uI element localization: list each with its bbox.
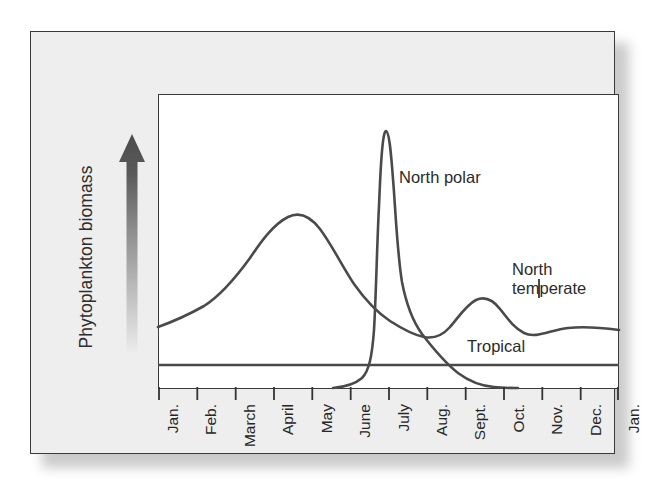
- annotation-north-temperate: North temperate: [512, 260, 586, 299]
- x-axis-tick-label: Sept.: [471, 404, 489, 440]
- y-axis-label-group: Phytoplankton biomass: [65, 92, 107, 422]
- annotation-north-temperate-line2: temperate: [512, 279, 586, 298]
- annotation-north-polar-text: North polar: [399, 168, 481, 186]
- annotation-north-temperate-line1: North: [512, 260, 586, 279]
- annotation-north-polar: North polar: [399, 168, 481, 187]
- x-axis-tick-label: May: [318, 404, 336, 433]
- x-axis-tick-label: Aug.: [433, 404, 451, 436]
- y-axis-label: Phytoplankton biomass: [76, 165, 97, 348]
- x-axis-tick-label: July: [395, 404, 413, 432]
- figure-root: Phytoplankton biomass: [0, 0, 664, 492]
- x-axis-tick-label: March: [241, 404, 259, 447]
- annotation-tropical: Tropical: [467, 337, 525, 356]
- x-axis-tick-label: Dec.: [587, 404, 605, 436]
- x-axis-tick-label: Oct.: [510, 404, 528, 432]
- x-axis-tick-labels: Jan.Feb.MarchAprilMayJuneJulyAug.Sept.Oc…: [158, 404, 619, 484]
- annotation-tropical-text: Tropical: [467, 337, 525, 355]
- x-axis-tick-label: June: [356, 404, 374, 438]
- x-axis-tick-label: April: [279, 404, 297, 435]
- x-axis-tick-label: Jan.: [164, 404, 182, 433]
- figure-card: Phytoplankton biomass: [30, 31, 615, 454]
- x-axis-tick-label: Feb.: [202, 404, 220, 435]
- x-axis-ticks: [158, 387, 619, 403]
- x-axis-tick-label: Jan.: [625, 404, 643, 433]
- up-arrow-gradient-icon: [117, 132, 147, 354]
- chart-curves: [158, 94, 619, 389]
- x-axis-tick-label: Nov.: [548, 404, 566, 435]
